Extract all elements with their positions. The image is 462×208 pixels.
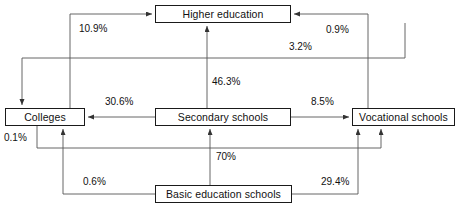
node-label-secondary-schools: Secondary schools bbox=[178, 112, 268, 123]
edge-label-secondary-to-colleges: 30.6% bbox=[104, 97, 134, 107]
edge-label-secondary-to-higher: 46.3% bbox=[211, 77, 241, 87]
edge-label-basic-to-vocational: 29.4% bbox=[320, 177, 350, 187]
connector-basic-to-colleges bbox=[63, 129, 155, 194]
node-secondary-schools[interactable]: Secondary schools bbox=[155, 108, 291, 126]
node-higher-education[interactable]: Higher education bbox=[155, 5, 291, 23]
edge-label-basic-to-secondary: 70% bbox=[215, 152, 237, 162]
node-label-colleges: Colleges bbox=[24, 112, 66, 123]
node-label-vocational-schools: Vocational schools bbox=[359, 112, 448, 123]
edge-label-secondary-to-vocational: 8.5% bbox=[310, 97, 335, 107]
node-basic-education-schools[interactable]: Basic education schools bbox=[155, 185, 292, 203]
edge-label-vocational-to-higher: 0.9% bbox=[325, 25, 350, 35]
connector-higher-to-colleges bbox=[22, 23, 405, 105]
node-vocational-schools[interactable]: Vocational schools bbox=[352, 108, 455, 126]
connector-colleges-to-vocational bbox=[37, 126, 381, 148]
node-colleges[interactable]: Colleges bbox=[5, 108, 85, 126]
node-label-basic-education-schools: Basic education schools bbox=[166, 189, 281, 200]
edge-label-basic-to-colleges: 0.6% bbox=[82, 177, 107, 187]
edge-label-colleges-to-vocational: 0.1% bbox=[3, 133, 28, 143]
edge-label-colleges-to-higher: 10.9% bbox=[78, 24, 108, 34]
edge-label-higher-to-colleges: 3.2% bbox=[288, 42, 313, 52]
diagram-connectors bbox=[0, 0, 462, 208]
node-label-higher-education: Higher education bbox=[183, 9, 264, 20]
diagram-canvas: Higher education Colleges Secondary scho… bbox=[0, 0, 462, 208]
